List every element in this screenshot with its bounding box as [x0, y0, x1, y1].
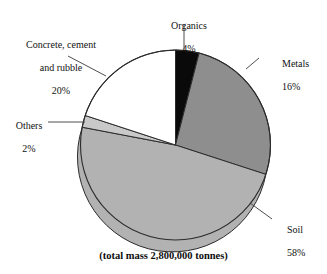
- pie-label-metals-value: 16%: [282, 81, 300, 92]
- pie-label-organics: Organics 4%: [144, 8, 224, 66]
- pie-label-concrete-line1: Concrete, cement: [26, 39, 96, 50]
- leader-line-metals: [246, 58, 259, 69]
- chart-caption: (total mass 2,800,000 tonnes): [0, 250, 327, 261]
- pie-label-concrete-value: 20%: [52, 85, 70, 96]
- pie-label-others-name: Others: [16, 120, 43, 131]
- pie-label-others: Others 2%: [2, 108, 46, 166]
- pie-label-soil-name: Soil: [287, 224, 303, 235]
- pie-label-concrete: Concrete, cement and rubble 20%: [6, 27, 106, 108]
- pie-label-organics-name: Organics: [171, 20, 207, 31]
- pie-label-others-value: 2%: [22, 143, 35, 154]
- leader-line-soil: [250, 203, 272, 219]
- pie-label-metals: Metals 16%: [272, 46, 327, 104]
- pie-label-metals-name: Metals: [282, 58, 309, 69]
- pie-chart-figure: Organics 4% Metals 16% Soil 58% Others 2…: [0, 0, 327, 274]
- pie-label-concrete-line2: and rubble: [40, 62, 83, 73]
- pie-label-organics-value: 4%: [182, 43, 195, 54]
